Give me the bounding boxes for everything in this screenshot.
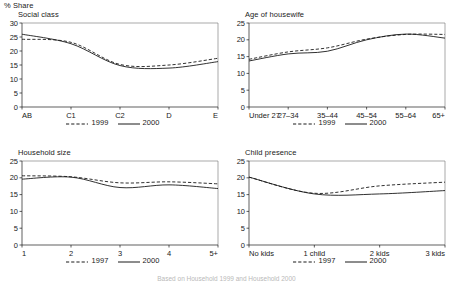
legend-item-1999: 1999 [293, 118, 335, 127]
legend-label-series-2: 2000 [370, 256, 387, 265]
legend-item-2000: 2000 [345, 256, 387, 265]
svg-text:25: 25 [237, 19, 245, 28]
dashed-line-icon [293, 259, 315, 265]
chart-plot-household-size: 051015202512345+ [0, 157, 226, 265]
svg-text:15: 15 [10, 61, 18, 70]
svg-text:10: 10 [237, 207, 245, 216]
legend-swatch-dashed [293, 258, 315, 264]
chart-plot-child-presence: 0510152025No kids1 child2 kids3 kids [227, 157, 453, 265]
solid-line-icon [118, 259, 140, 265]
chart-title-child-presence: Child presence [245, 148, 296, 157]
legend-swatch-solid [118, 258, 140, 264]
legend-item-1999: 1999 [66, 118, 108, 127]
dashed-line-icon [66, 121, 88, 127]
legend-item-2000: 2000 [345, 118, 387, 127]
legend-swatch-dashed [66, 258, 88, 264]
svg-text:5: 5 [241, 86, 245, 95]
chart-panel-household-size: Household size 051015202512345+ 1997 200… [0, 148, 226, 273]
solid-line-icon [345, 259, 367, 265]
unit-label: % Share [4, 1, 33, 10]
legend-label-series-2: 2000 [143, 118, 160, 127]
svg-text:15: 15 [237, 190, 245, 199]
chart-plot-age-of-housewife: 0510152025Under 2727–3435–4445–5455–6465… [227, 19, 453, 127]
svg-text:10: 10 [10, 207, 18, 216]
chart-title-age-of-housewife: Age of housewife [245, 10, 304, 19]
svg-text:25: 25 [237, 157, 245, 166]
legend-item-1997: 1997 [66, 256, 108, 265]
svg-text:20: 20 [237, 35, 245, 44]
solid-line-icon [345, 121, 367, 127]
svg-text:25: 25 [10, 157, 18, 166]
svg-text:30: 30 [10, 19, 18, 28]
svg-text:0: 0 [241, 241, 245, 250]
legend-label-series-1: 1997 [91, 256, 108, 265]
solid-line-icon [118, 121, 140, 127]
svg-text:10: 10 [10, 75, 18, 84]
svg-text:0: 0 [14, 241, 18, 250]
legend-social-class: 1999 2000 [0, 118, 226, 127]
chart-panel-child-presence: Child presence 0510152025No kids1 child2… [227, 148, 453, 273]
chart-title-social-class: Social class [18, 10, 59, 19]
legend-swatch-dashed [293, 120, 315, 126]
svg-text:20: 20 [10, 173, 18, 182]
svg-text:20: 20 [237, 173, 245, 182]
legend-item-2000: 2000 [118, 256, 160, 265]
legend-swatch-solid [345, 120, 367, 126]
svg-text:5: 5 [14, 224, 18, 233]
legend-household-size: 1997 2000 [0, 256, 226, 265]
chart-panel-age-of-housewife: Age of housewife 0510152025Under 2727–34… [227, 10, 453, 135]
legend-item-2000: 2000 [118, 118, 160, 127]
svg-text:15: 15 [237, 52, 245, 61]
legend-label-series-1: 1997 [318, 256, 335, 265]
svg-text:5: 5 [241, 224, 245, 233]
chart-plot-social-class: 051015202530ABC1C2DE [0, 19, 226, 127]
svg-text:5: 5 [14, 89, 18, 98]
svg-text:0: 0 [14, 103, 18, 112]
legend-swatch-dashed [66, 120, 88, 126]
legend-item-1997: 1997 [293, 256, 335, 265]
chart-title-household-size: Household size [18, 148, 71, 157]
svg-text:25: 25 [10, 33, 18, 42]
dashed-line-icon [66, 259, 88, 265]
legend-child-presence: 1997 2000 [227, 256, 453, 265]
legend-label-series-2: 2000 [143, 256, 160, 265]
legend-age-of-housewife: 1999 2000 [227, 118, 453, 127]
svg-text:10: 10 [237, 69, 245, 78]
svg-text:0: 0 [241, 103, 245, 112]
svg-text:20: 20 [10, 47, 18, 56]
figure-caption: Based on Household 1999 and Household 20… [0, 275, 453, 282]
legend-label-series-2: 2000 [370, 118, 387, 127]
dashed-line-icon [293, 121, 315, 127]
legend-swatch-solid [118, 120, 140, 126]
chart-panel-social-class: Social class 051015202530ABC1C2DE 1999 2… [0, 10, 226, 135]
svg-text:15: 15 [10, 190, 18, 199]
figure-container: % Share Social class 051015202530ABC1C2D… [0, 0, 453, 282]
legend-swatch-solid [345, 258, 367, 264]
legend-label-series-1: 1999 [91, 118, 108, 127]
legend-label-series-1: 1999 [318, 118, 335, 127]
